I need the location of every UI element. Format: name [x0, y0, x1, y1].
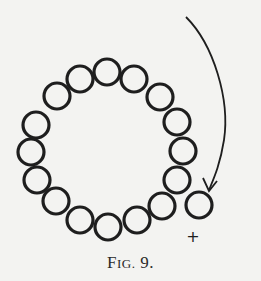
bead: [95, 214, 121, 240]
bead: [164, 109, 190, 135]
bead: [124, 207, 150, 233]
bead: [44, 83, 70, 109]
bead: [24, 167, 50, 193]
bead-ring: [18, 59, 196, 240]
caption-initial: F: [107, 253, 117, 272]
bead: [67, 207, 93, 233]
bead: [147, 84, 173, 110]
bead: [23, 112, 49, 138]
figure-caption: FIG. 9.: [0, 253, 261, 273]
necklace-diagram: +: [0, 0, 261, 281]
caption-smallcaps: IG.: [117, 256, 135, 271]
caption-number: 9.: [135, 253, 154, 272]
curved-arrow: [186, 17, 225, 190]
plus-sign: +: [186, 227, 199, 246]
bead: [121, 66, 147, 92]
arrowhead-icon: [203, 178, 217, 191]
bead: [149, 193, 175, 219]
bead: [164, 167, 190, 193]
bead: [94, 59, 120, 85]
detached-bead: [186, 192, 212, 218]
bead: [170, 138, 196, 164]
bead: [43, 188, 69, 214]
bead: [18, 139, 44, 165]
bead: [67, 66, 93, 92]
